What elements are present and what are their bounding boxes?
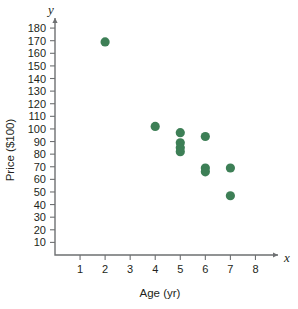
x-tick-label: 4: [152, 263, 158, 275]
data-point: [151, 122, 160, 131]
data-point: [201, 167, 210, 176]
y-tick-label: 30: [34, 211, 46, 223]
plot-canvas: 1020304050607080901001101201301401501601…: [0, 0, 298, 309]
y-tick-label: 150: [28, 60, 46, 72]
x-tick-label: 2: [102, 263, 108, 275]
y-tick-label: 80: [34, 148, 46, 160]
x-tick-marks: [80, 255, 255, 260]
x-axis-letter: x: [283, 250, 290, 265]
data-point: [201, 132, 210, 141]
x-tick-label: 5: [177, 263, 183, 275]
y-tick-label: 20: [34, 224, 46, 236]
y-tick-label: 130: [28, 85, 46, 97]
scatter-plot-figure: 1020304050607080901001101201301401501601…: [0, 0, 298, 309]
y-axis-letter: y: [46, 2, 54, 17]
x-axis-arrow: [273, 252, 278, 257]
x-tick-label: 8: [252, 263, 258, 275]
y-tick-label: 140: [28, 73, 46, 85]
y-tick-marks: [50, 28, 55, 242]
y-tick-label: 90: [34, 136, 46, 148]
x-axis-title: Age (yr): [140, 287, 181, 299]
y-tick-label: 110: [28, 110, 46, 122]
x-tick-labels: 12345678: [77, 263, 259, 275]
y-axis-title: Price ($100): [4, 119, 16, 182]
x-tick-label: 3: [127, 263, 133, 275]
y-tick-label: 40: [34, 199, 46, 211]
data-points-group: [101, 37, 235, 200]
x-tick-label: 1: [77, 263, 83, 275]
y-tick-labels: 1020304050607080901001101201301401501601…: [28, 22, 46, 248]
y-tick-label: 180: [28, 22, 46, 34]
y-tick-label: 60: [34, 173, 46, 185]
y-axis-arrow: [52, 18, 57, 23]
x-tick-label: 6: [202, 263, 208, 275]
x-tick-label: 7: [227, 263, 233, 275]
axes-group: [52, 18, 278, 258]
y-tick-label: 160: [28, 47, 46, 59]
axis-lines: [55, 18, 278, 255]
data-point: [176, 147, 185, 156]
y-tick-label: 70: [34, 161, 46, 173]
data-point: [101, 37, 110, 46]
y-tick-label: 50: [34, 186, 46, 198]
y-tick-label: 100: [28, 123, 46, 135]
data-point: [226, 191, 235, 200]
data-point: [226, 163, 235, 172]
y-tick-label: 120: [28, 98, 46, 110]
y-tick-label: 10: [34, 236, 46, 248]
data-point: [176, 128, 185, 137]
y-tick-label: 170: [28, 35, 46, 47]
